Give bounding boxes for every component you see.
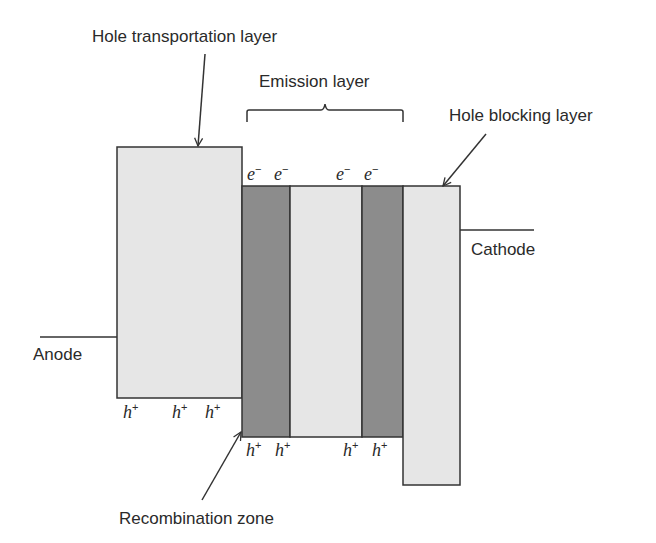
recombination-label: Recombination zone	[119, 509, 274, 528]
svg-text:h+: h+	[275, 439, 290, 460]
htl-arrow	[198, 54, 205, 146]
svg-text:e−: e−	[364, 163, 378, 184]
svg-text:e−: e−	[336, 163, 350, 184]
eml-brace	[247, 104, 403, 122]
svg-text:h+: h+	[172, 401, 187, 422]
htl-label: Hole transportation layer	[92, 27, 278, 46]
electron-group-right: e− e−	[336, 163, 378, 184]
oled-layer-diagram: Hole transportation layer Emission layer…	[0, 0, 656, 543]
htl-block	[117, 147, 242, 398]
svg-text:e−: e−	[247, 163, 261, 184]
cathode-label: Cathode	[471, 240, 535, 259]
hole-group-htl: h+ h+ h+	[123, 401, 220, 422]
recombination-arrow	[202, 432, 241, 500]
anode-label: Anode	[33, 345, 82, 364]
eml-dark-band-2	[362, 186, 403, 437]
electron-group-left: e− e−	[247, 163, 288, 184]
hole-group-eml-right: h+ h+	[343, 439, 387, 460]
eml-light-band	[290, 186, 362, 437]
svg-text:h+: h+	[246, 439, 261, 460]
hbl-block	[403, 186, 460, 485]
eml-dark-band-1	[242, 186, 290, 437]
hole-group-eml-left: h+ h+	[246, 439, 290, 460]
svg-text:h+: h+	[205, 401, 220, 422]
hbl-label: Hole blocking layer	[449, 106, 593, 125]
svg-text:h+: h+	[343, 439, 358, 460]
svg-text:h+: h+	[123, 401, 138, 422]
svg-text:e−: e−	[274, 163, 288, 184]
eml-label: Emission layer	[259, 72, 370, 91]
svg-text:h+: h+	[372, 439, 387, 460]
hbl-arrow	[443, 134, 486, 186]
